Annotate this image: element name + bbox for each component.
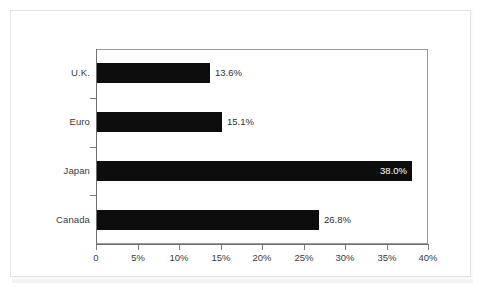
- x-axis-tick-label: 20%: [252, 252, 271, 263]
- x-axis-tick: [345, 245, 346, 250]
- x-axis-tick: [138, 245, 139, 250]
- x-axis-tick-label: 0: [93, 252, 98, 263]
- x-axis-tick: [387, 245, 388, 250]
- y-axis-line: [96, 49, 97, 245]
- category-label-u-k: U.K.: [20, 67, 90, 78]
- chart-card: U.K.13.6%Euro15.1%Japan38.0%Canada26.8%0…: [10, 10, 471, 277]
- x-axis-tick-label: 5%: [131, 252, 145, 263]
- x-axis-tick: [179, 245, 180, 250]
- bar-euro: [97, 112, 222, 132]
- category-label-japan: Japan: [20, 165, 90, 176]
- x-axis-tick-label: 35%: [377, 252, 396, 263]
- x-axis-line: [96, 244, 429, 245]
- x-axis-tick: [96, 245, 97, 250]
- card-shadow: [12, 279, 473, 283]
- category-label-euro: Euro: [20, 116, 90, 127]
- bar-value-u-k: 13.6%: [215, 67, 242, 78]
- x-axis-tick-label: 10%: [169, 252, 188, 263]
- x-axis-tick-label: 30%: [335, 252, 354, 263]
- category-label-canada: Canada: [20, 214, 90, 225]
- bar-value-japan: 38.0%: [97, 165, 407, 176]
- bar-value-canada: 26.8%: [324, 214, 351, 225]
- bar-canada: [97, 210, 319, 230]
- x-axis-tick-label: 25%: [294, 252, 313, 263]
- bar-value-euro: 15.1%: [227, 116, 254, 127]
- x-axis-tick-label: 40%: [418, 252, 437, 263]
- x-axis-tick-label: 15%: [211, 252, 230, 263]
- x-axis-tick: [304, 245, 305, 250]
- x-axis-tick: [221, 245, 222, 250]
- x-axis-tick: [262, 245, 263, 250]
- bar-u-k: [97, 63, 210, 83]
- x-axis-tick: [428, 245, 429, 250]
